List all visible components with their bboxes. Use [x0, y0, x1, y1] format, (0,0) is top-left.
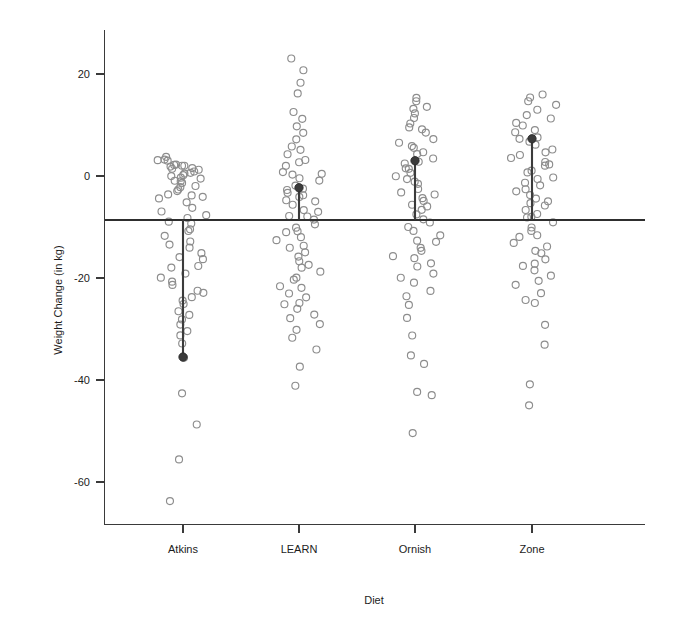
data-point [311, 221, 318, 228]
data-point [522, 179, 529, 186]
group-mean-dot [295, 184, 303, 192]
data-point [539, 91, 546, 98]
data-point [541, 341, 548, 348]
data-point [302, 249, 309, 256]
data-point [289, 171, 296, 178]
data-point [315, 208, 322, 215]
data-point [519, 122, 526, 129]
data-point [404, 176, 411, 183]
data-point [396, 139, 403, 146]
data-point [547, 272, 554, 279]
data-point [157, 274, 164, 281]
group-mean-dot [528, 135, 536, 143]
data-point [287, 315, 294, 322]
y-tick-label: -20 [74, 272, 90, 284]
data-point [292, 382, 299, 389]
data-point [397, 274, 404, 281]
data-point [158, 208, 165, 215]
data-point [408, 143, 415, 150]
data-point [273, 237, 280, 244]
data-point [428, 392, 435, 399]
data-point [526, 402, 533, 409]
data-point [437, 232, 444, 239]
data-point [516, 151, 523, 158]
data-point [288, 55, 295, 62]
data-point [188, 294, 195, 301]
data-point [553, 101, 560, 108]
data-point [407, 352, 414, 359]
data-point [186, 311, 193, 318]
data-point [313, 346, 320, 353]
weight-change-by-diet-chart: 200-20-40-60 AtkinsLEARNOrnishZone Weigh… [0, 0, 680, 629]
data-point [537, 182, 544, 189]
data-point [283, 229, 290, 236]
data-point [179, 390, 186, 397]
data-point [168, 264, 175, 271]
data-point [296, 175, 303, 182]
data-point [155, 195, 162, 202]
data-point [304, 213, 311, 220]
data-point [185, 228, 192, 235]
data-point [290, 109, 297, 116]
data-point [414, 237, 421, 244]
y-tick-label: -60 [74, 476, 90, 488]
data-point [542, 256, 549, 263]
group-mean-dot [411, 157, 419, 165]
chart-canvas: 200-20-40-60 AtkinsLEARNOrnishZone Weigh… [0, 0, 680, 629]
y-tick-label: -40 [74, 374, 90, 386]
data-point [297, 146, 304, 153]
data-point [296, 363, 303, 370]
data-point [316, 177, 323, 184]
data-point [414, 263, 421, 270]
data-point [312, 198, 319, 205]
data-point [300, 129, 307, 136]
data-point [427, 260, 434, 267]
data-point [176, 456, 183, 463]
data-point [519, 262, 526, 269]
data-point [423, 103, 430, 110]
x-axis-ticks: AtkinsLEARNOrnishZone [168, 525, 545, 556]
x-tick-label: LEARN [281, 543, 318, 555]
data-point [522, 206, 529, 213]
data-point [297, 79, 304, 86]
data-point [286, 290, 293, 297]
data-point [193, 421, 200, 428]
data-point [421, 360, 428, 367]
data-point [317, 268, 324, 275]
data-point [284, 151, 291, 158]
group-means-layer [179, 135, 536, 362]
x-axis-title: Diet [364, 594, 384, 606]
data-point [534, 106, 541, 113]
data-point [283, 197, 290, 204]
data-point [398, 189, 405, 196]
data-point [516, 233, 523, 240]
data-point [277, 283, 284, 290]
data-point [303, 294, 310, 301]
data-point [318, 170, 325, 177]
data-point [430, 136, 437, 143]
data-point [411, 255, 418, 262]
data-point [431, 191, 438, 198]
data-point [316, 321, 323, 328]
data-point [409, 332, 416, 339]
y-axis-title: Weight Change (in kg) [52, 245, 64, 354]
data-points-layer [154, 55, 559, 505]
data-point [289, 201, 296, 208]
data-point [550, 174, 557, 181]
data-point [389, 253, 396, 260]
data-point [414, 388, 421, 395]
data-point [286, 244, 293, 251]
data-point [522, 297, 529, 304]
data-point [512, 281, 519, 288]
data-point [430, 155, 437, 162]
data-point [199, 193, 206, 200]
data-point [300, 207, 307, 214]
data-point [279, 169, 286, 176]
group-mean-dot [179, 353, 187, 361]
data-point [289, 334, 296, 341]
data-point [161, 232, 168, 239]
data-point [300, 242, 307, 249]
data-point [513, 119, 520, 126]
data-point [300, 67, 307, 74]
data-point [192, 183, 199, 190]
